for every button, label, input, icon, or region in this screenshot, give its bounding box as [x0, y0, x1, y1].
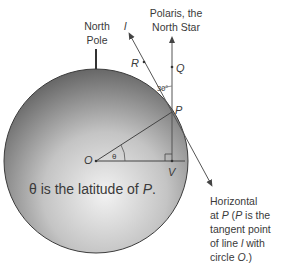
horizontal-label-5: circle O.)	[210, 251, 252, 263]
line-l-label: l	[124, 20, 127, 32]
horizontal-label-4: of line l with	[210, 237, 265, 249]
horizontal-label-3: tangent point	[210, 223, 271, 235]
polaris-label: Polaris, the	[150, 7, 203, 19]
point-O-label: O	[84, 154, 93, 166]
point-Q-label: Q	[176, 62, 185, 74]
point-R-dot	[143, 61, 146, 64]
point-R-label: R	[131, 57, 139, 69]
latitude-diagram: North Pole l Polaris, the North Star R Q…	[0, 0, 281, 272]
angle-30-label: 30°	[157, 84, 168, 93]
polaris-label-2: North Star	[152, 21, 200, 33]
point-Q-dot	[171, 66, 174, 69]
point-P-label: P	[175, 104, 183, 116]
horizontal-label-2: at P (P is the	[210, 209, 270, 221]
latitude-caption: θ is the latitude of P.	[29, 181, 156, 197]
theta-label: θ	[112, 152, 117, 161]
point-O-dot	[95, 160, 98, 163]
point-V-dot	[171, 160, 174, 163]
north-pole-label: North	[84, 20, 110, 32]
horizontal-label-1: Horizontal	[210, 195, 257, 207]
north-pole-label-2: Pole	[86, 34, 107, 46]
